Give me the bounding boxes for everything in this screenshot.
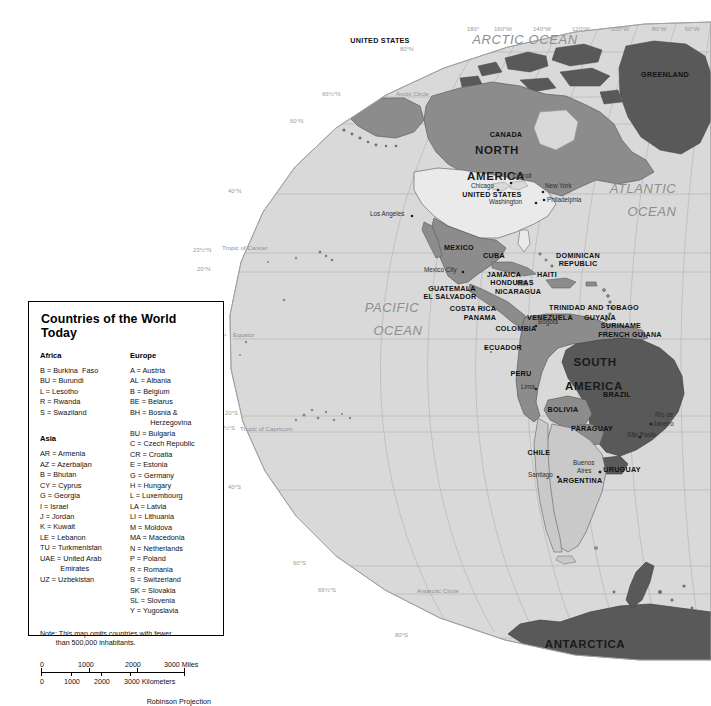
latitude-label: 60°N xyxy=(290,118,303,124)
legend-title: Countries of the World Today xyxy=(41,312,213,340)
scale-miles-labels: 0 1000 2000 3000 Miles xyxy=(40,661,212,671)
legend-columns: Africa B = Burkina FasoBU = BurundiL = L… xyxy=(40,351,213,617)
city-label: São Paulo xyxy=(627,431,657,438)
legend-europe-item: AL = Albania xyxy=(130,376,222,386)
legend-asia-item: TU = Turkmenistan xyxy=(40,543,116,553)
scale-line xyxy=(41,672,185,673)
country-label: REPUBLIC xyxy=(559,259,598,268)
legend-column-right: Europe A = AustriaAL = AlbaniaB = Belgiu… xyxy=(130,351,222,617)
country-label: SURINAME xyxy=(601,321,641,330)
legend-europe-item: LI = Lithuania xyxy=(130,512,222,522)
city-label: Janeiro xyxy=(653,420,674,427)
country-label: TRINIDAD AND TOBAGO xyxy=(549,303,639,312)
legend-europe-item: E = Estonia xyxy=(130,460,222,470)
projection-label: Robinson Projection xyxy=(40,697,213,706)
city-label: Buenos xyxy=(573,459,594,466)
ocean-label: ATLANTIC xyxy=(609,181,677,196)
scale-bar: 0 1000 2000 3000 Miles 0 1000 2000 3000 … xyxy=(40,661,212,688)
city-dot xyxy=(411,215,414,218)
city-dot xyxy=(650,423,653,426)
legend-europe-item: G = Germany xyxy=(130,471,222,481)
legend-europe-item: BH = Bosnia & Herzegovina xyxy=(130,408,222,429)
legend-europe-item: SL = Slovenia xyxy=(130,596,222,606)
longitude-label: 60°W xyxy=(685,26,700,32)
country-label: PERU xyxy=(511,369,532,378)
latitude-label: 23½°N xyxy=(193,247,211,253)
scale-km-1000: 1000 xyxy=(64,678,80,686)
legend-asia-item: CY = Cyprus xyxy=(40,481,116,491)
legend-africa-item: S = Swaziland xyxy=(40,408,116,418)
legend-asia-item: AZ = Azerbaijan xyxy=(40,460,116,470)
legend-europe-item: L = Luxembourg xyxy=(130,491,222,501)
reference-line-label: Equator xyxy=(233,331,255,338)
legend-list-africa: B = Burkina FasoBU = BurundiL = LesothoR… xyxy=(40,366,116,418)
legend-heading-africa: Africa xyxy=(40,351,116,360)
country-label: CUBA xyxy=(483,251,505,260)
country-label: NICARAGUA xyxy=(495,287,541,296)
country-label: BRAZIL xyxy=(603,390,631,399)
legend-europe-item: SK = Slovakia xyxy=(130,586,222,596)
latitude-label: 60°S xyxy=(293,560,306,566)
ocean-label: PACIFIC xyxy=(365,300,420,315)
country-label: HONDURAS xyxy=(490,278,534,287)
city-dot xyxy=(535,325,538,328)
city-label: Santiago xyxy=(528,471,553,479)
scale-km-0: 0 xyxy=(40,678,44,686)
country-label: ECUADOR xyxy=(484,343,523,352)
scale-miles-2000: 2000 xyxy=(125,661,141,669)
legend-asia-item: K = Kuwait xyxy=(40,522,116,532)
legend-africa-item: BU = Burundi xyxy=(40,376,116,386)
legend-europe-item: BE = Belarus xyxy=(130,397,222,407)
longitude-label: 120°W xyxy=(572,26,590,32)
legend-heading-asia: Asia xyxy=(40,434,116,443)
city-dot xyxy=(510,182,513,185)
country-label: BOLIVIA xyxy=(548,405,579,414)
legend-asia-item: G = Georgia xyxy=(40,491,116,501)
continent-label: NORTH xyxy=(475,144,519,156)
latitude-label: 20°N xyxy=(197,266,210,272)
longitude-label-group: 180°160°W140°W120°W100°W80°W60°W xyxy=(467,26,700,32)
legend-asia-item: B = Bhutan xyxy=(40,470,116,480)
city-dot xyxy=(497,189,500,192)
legend-europe-item: Y = Yugoslavia xyxy=(130,606,222,616)
legend-asia-item: I = Israel xyxy=(40,502,116,512)
country-label: CHILE xyxy=(528,448,551,457)
country-label: GREENLAND xyxy=(641,70,689,79)
legend-asia-item: UZ = Uzbekistan xyxy=(40,575,116,585)
city-dot xyxy=(557,476,560,479)
city-label: Mexico City xyxy=(424,266,457,274)
reference-line-label: Tropic of Cancer xyxy=(222,244,268,251)
city-dot xyxy=(535,388,538,391)
longitude-label: 80°W xyxy=(652,26,667,32)
legend-europe-item: C = Czech Republic xyxy=(130,439,222,449)
legend-asia-item: AR = Armenia xyxy=(40,449,116,459)
legend-europe-item: CR = Croatia xyxy=(130,450,222,460)
country-label: PARAGUAY xyxy=(571,424,613,433)
scale-miles-3000: 3000 Miles xyxy=(164,661,198,669)
scale-km-3000: 3000 Kilometers xyxy=(124,678,175,686)
legend-list-asia: AR = ArmeniaAZ = AzerbaijanB = BhutanCY … xyxy=(40,449,116,585)
city-dot xyxy=(639,436,642,439)
longitude-label: 100°W xyxy=(611,26,629,32)
legend-europe-item: BU = Bulgaria xyxy=(130,429,222,439)
legend-note: Note: This map omits countries with fewe… xyxy=(40,630,213,649)
ocean-label: OCEAN xyxy=(373,323,422,338)
latitude-label: 40°N xyxy=(228,188,241,194)
legend-europe-item: H = Hungary xyxy=(130,481,222,491)
map-legend: Countries of the World Today Africa B = … xyxy=(28,301,224,636)
continent-label: SOUTH xyxy=(573,356,616,368)
country-label: EL SALVADOR xyxy=(423,292,477,301)
legend-africa-item: R = Rwanda xyxy=(40,397,116,407)
country-label: MEXICO xyxy=(444,243,474,252)
latitude-label: 66½°N xyxy=(322,91,340,97)
country-label: UNITED STATES xyxy=(350,36,409,45)
latitude-label: 80°N xyxy=(400,46,413,52)
city-dot xyxy=(543,199,546,202)
scale-km-2000: 2000 xyxy=(94,678,110,686)
latitude-label: 66½°S xyxy=(318,587,336,593)
country-label: HAITI xyxy=(537,270,557,279)
city-label: Chicago xyxy=(471,182,495,190)
legend-asia-item: J = Jordan xyxy=(40,512,116,522)
scale-km-labels: 0 1000 2000 3000 Kilometers xyxy=(40,678,212,688)
legend-europe-item: M = Moldova xyxy=(130,523,222,533)
